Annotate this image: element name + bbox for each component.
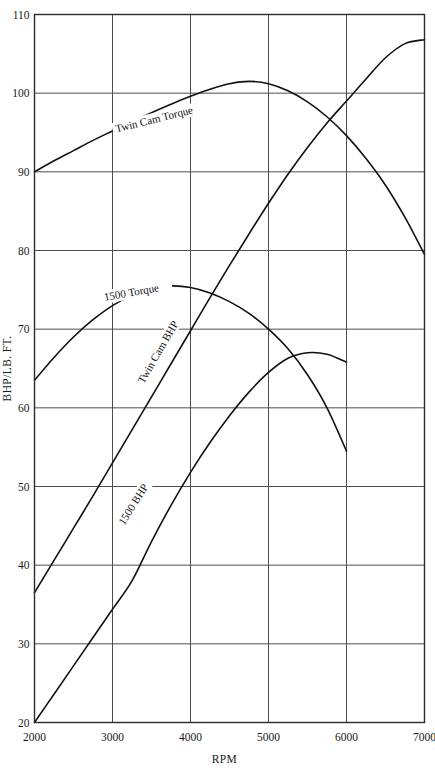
- curve-label-group: Twin Cam Torque: [111, 100, 207, 136]
- y-tick-label: 60: [18, 402, 30, 414]
- x-axis-title: RPM: [212, 753, 238, 765]
- curve-label-group: Twin Cam BHP: [134, 314, 184, 388]
- y-tick-label: 50: [18, 481, 30, 493]
- y-tick-label: 70: [18, 323, 30, 335]
- x-tick-label: 5000: [257, 731, 280, 743]
- y-tick-label: 30: [18, 638, 30, 650]
- x-tick-label: 3000: [101, 731, 124, 743]
- y-tick-label: 40: [18, 559, 30, 571]
- plot-frame: [35, 15, 425, 723]
- plot-border: [35, 15, 425, 723]
- y-tick-label: 100: [12, 87, 30, 99]
- chart-canvas: 2030405060708090100110200030004000500060…: [0, 0, 435, 771]
- curve-label: 1500 Torque: [103, 281, 160, 302]
- x-tick-label: 6000: [335, 731, 358, 743]
- tick-labels-layer: 2030405060708090100110200030004000500060…: [12, 9, 435, 743]
- curve-label-group: 1500 Torque: [100, 279, 173, 304]
- y-tick-label: 20: [18, 717, 30, 729]
- curve-label: 1500 BHP: [116, 481, 151, 527]
- x-tick-label: 4000: [179, 731, 202, 743]
- y-tick-label: 90: [18, 166, 30, 178]
- y-tick-label: 110: [13, 9, 30, 21]
- series-curve-twin-cam-torque: [35, 81, 425, 254]
- x-tick-label: 7000: [413, 731, 435, 743]
- series-curve-twin-cam-bhp: [35, 40, 425, 593]
- curves-layer: [35, 40, 425, 723]
- x-tick-label: 2000: [23, 731, 46, 743]
- curve-label: Twin Cam BHP: [135, 318, 180, 385]
- curve-label-group: 1500 BHP: [114, 477, 154, 530]
- curve-labels-layer: Twin Cam Torque1500 TorqueTwin Cam BHP15…: [100, 100, 207, 530]
- y-tick-label: 80: [18, 245, 30, 257]
- axis-titles-layer: RPMBHP/LB. FT.: [1, 336, 237, 765]
- grid-layer: [35, 15, 425, 723]
- y-axis-title: BHP/LB. FT.: [1, 336, 13, 402]
- dyno-chart: 2030405060708090100110200030004000500060…: [0, 0, 435, 771]
